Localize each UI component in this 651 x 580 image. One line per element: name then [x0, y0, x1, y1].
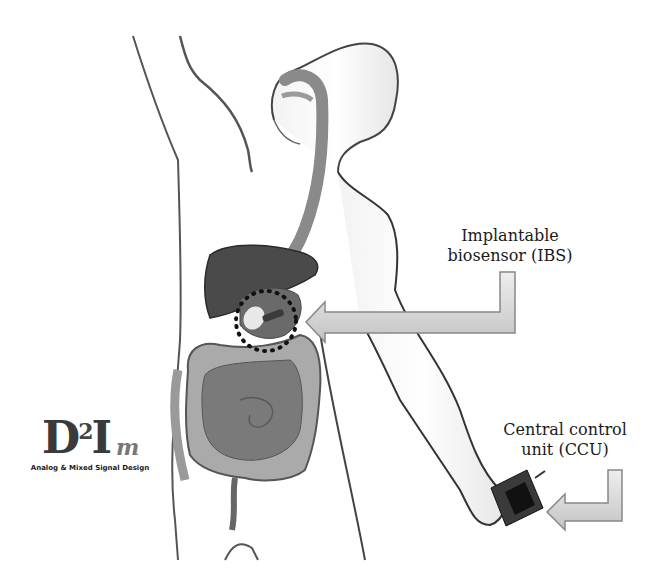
- logo-superscript: 2: [78, 418, 91, 444]
- ccu-label: Central control unit (CCU): [480, 420, 650, 460]
- ibs-label-line1: Implantable: [430, 226, 590, 246]
- ibs-label-line2: biosensor (IBS): [430, 246, 590, 266]
- logo-letter-m: m: [116, 434, 139, 460]
- logo-mark: D2I: [42, 412, 110, 463]
- ibs-arrow: [306, 272, 515, 342]
- anatomy-diagram: [0, 0, 651, 580]
- ibs-label: Implantable biosensor (IBS): [430, 226, 590, 266]
- d2im-logo: D2I m Analog & Mixed Signal Design: [30, 412, 150, 492]
- ccu-label-line2: unit (CCU): [480, 440, 650, 460]
- logo-tagline: Analog & Mixed Signal Design: [30, 464, 150, 472]
- small-intestine: [202, 360, 302, 460]
- logo-letter-d: D: [42, 412, 78, 463]
- logo-letter-i: I: [91, 412, 110, 463]
- ccu-label-line1: Central control: [480, 420, 650, 440]
- ccu-arrow: [547, 470, 622, 530]
